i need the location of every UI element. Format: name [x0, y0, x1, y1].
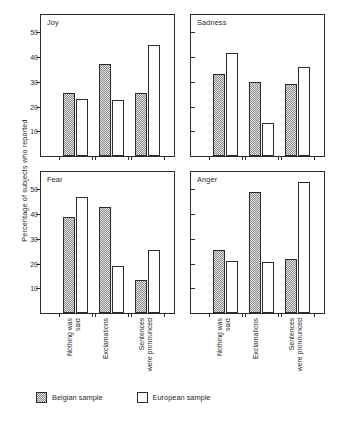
x-labels-column-left: Nothing was saidExclamationsSentences we…	[40, 318, 175, 384]
bar-group	[285, 172, 310, 313]
legend-label-european: European sample	[153, 393, 211, 402]
bar-belgian	[135, 93, 147, 156]
y-tick	[191, 288, 195, 289]
y-tick-label: 20	[30, 103, 38, 110]
x-labels-column-right: Nothing was saidExclamationsSentences we…	[190, 318, 325, 384]
y-tick	[191, 214, 195, 215]
x-tick	[128, 156, 129, 160]
y-tick-label: 50	[30, 29, 38, 36]
y-tick	[191, 131, 195, 132]
legend-label-belgian: Belgian sample	[52, 393, 103, 402]
bar-belgian	[213, 74, 225, 156]
y-tick	[191, 264, 195, 265]
panel-sadness: Sadness	[190, 14, 325, 157]
bar-group	[285, 15, 310, 156]
x-tick	[209, 156, 210, 160]
plot-area	[191, 172, 324, 313]
bar-group	[249, 172, 274, 313]
bar-european	[112, 266, 124, 313]
x-tick	[314, 313, 315, 317]
x-tick	[245, 313, 246, 317]
bar-belgian	[249, 192, 261, 313]
plot-area	[191, 15, 324, 156]
bar-belgian	[63, 217, 75, 313]
bar-belgian	[99, 207, 111, 313]
y-tick-label: 30	[30, 235, 38, 242]
panel-fear: Fear 1020304050	[40, 171, 175, 314]
bar-group	[213, 15, 238, 156]
panel-anger: Anger	[190, 171, 325, 314]
y-tick-label: 10	[30, 285, 38, 292]
legend-swatch-european-icon	[137, 392, 148, 403]
bar-group	[135, 172, 160, 313]
x-tick	[164, 313, 165, 317]
x-category-label: Nothing was said	[66, 318, 82, 356]
y-tick	[191, 57, 195, 58]
plot-area: 1020304050	[41, 172, 174, 313]
bar-belgian	[285, 259, 297, 313]
y-tick-label: 50	[30, 186, 38, 193]
bar-group	[249, 15, 274, 156]
x-category-label: Exclamations	[252, 318, 260, 359]
x-tick	[278, 313, 279, 317]
y-tick-label: 10	[30, 128, 38, 135]
bar-european	[226, 53, 238, 156]
figure-multipanel-bar-chart: Percentage of subjects who reported Joy …	[0, 0, 338, 424]
bar-european	[298, 182, 310, 313]
x-tick	[242, 156, 243, 160]
plot-area: 1020304050	[41, 15, 174, 156]
x-tick	[131, 313, 132, 317]
x-tick	[131, 156, 132, 160]
x-tick	[92, 156, 93, 160]
bar-belgian	[249, 82, 261, 156]
bar-european	[148, 45, 160, 156]
y-tick	[191, 107, 195, 108]
x-tick	[281, 313, 282, 317]
y-tick-label: 40	[30, 211, 38, 218]
bar-group	[99, 172, 124, 313]
y-tick	[191, 189, 195, 190]
x-tick	[281, 156, 282, 160]
x-tick	[209, 313, 210, 317]
bar-european	[76, 197, 88, 313]
x-category-label: Exclamations	[102, 318, 110, 359]
panels-grid: Joy 1020304050 Sadness Fear 1020304050 A…	[40, 14, 330, 314]
x-tick	[95, 313, 96, 317]
bar-group	[99, 15, 124, 156]
y-tick	[191, 32, 195, 33]
y-tick-label: 40	[30, 54, 38, 61]
bar-european	[298, 67, 310, 156]
y-axis-title: Percentage of subjects who reported	[20, 61, 29, 301]
bar-group	[63, 172, 88, 313]
x-tick	[92, 313, 93, 317]
x-tick	[314, 156, 315, 160]
bar-group	[213, 172, 238, 313]
bar-belgian	[135, 280, 147, 313]
x-category-label: Sentences were pronounced	[138, 318, 154, 371]
x-tick	[95, 156, 96, 160]
x-tick	[164, 156, 165, 160]
bar-belgian	[285, 84, 297, 156]
x-tick	[59, 156, 60, 160]
bar-belgian	[63, 93, 75, 156]
x-tick	[59, 313, 60, 317]
bar-group	[63, 15, 88, 156]
y-tick-label: 30	[30, 78, 38, 85]
bar-european	[112, 100, 124, 156]
legend: Belgian sample European sample	[36, 392, 232, 403]
x-tick	[245, 156, 246, 160]
legend-item-european: European sample	[137, 392, 233, 403]
y-tick	[191, 239, 195, 240]
legend-item-belgian: Belgian sample	[36, 392, 125, 403]
bar-european	[76, 99, 88, 156]
x-category-label: Nothing was said	[216, 318, 232, 356]
x-tick	[242, 313, 243, 317]
x-axis-category-labels: Nothing was saidExclamationsSentences we…	[40, 318, 330, 384]
bar-european	[262, 262, 274, 313]
y-tick	[191, 82, 195, 83]
x-tick	[278, 156, 279, 160]
bar-european	[148, 250, 160, 313]
bar-belgian	[213, 250, 225, 313]
y-tick-label: 20	[30, 260, 38, 267]
legend-swatch-belgian-icon	[36, 392, 47, 403]
